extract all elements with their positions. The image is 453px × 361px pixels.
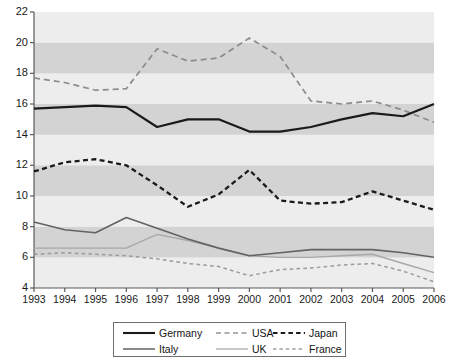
x-tick-2003: 2003 [325, 294, 359, 305]
legend-item-uk[interactable]: UK [215, 341, 267, 357]
y-tick-18: 18 [2, 67, 28, 78]
italy-line-icon [122, 344, 156, 354]
x-tick-1994: 1994 [48, 294, 82, 305]
x-tick-1999: 1999 [202, 294, 236, 305]
x-tick-2006: 2006 [417, 294, 451, 305]
y-tick-8: 8 [2, 221, 28, 232]
y-tick-6: 6 [2, 251, 28, 262]
x-tick-1996: 1996 [109, 294, 143, 305]
legend-label-uk: UK [252, 344, 267, 354]
y-tick-10: 10 [2, 190, 28, 201]
y-tick-14: 14 [2, 129, 28, 140]
france-line-icon [272, 344, 306, 354]
legend-item-france[interactable]: France [272, 341, 342, 357]
x-tick-1995: 1995 [79, 294, 113, 305]
chart-figure: 46810121416182022 1993199419951996199719… [0, 0, 453, 361]
line-chart-canvas [0, 0, 453, 361]
x-tick-1993: 1993 [17, 294, 51, 305]
y-tick-16: 16 [2, 98, 28, 109]
chart-legend: Germany USA Japan Italy UK France [113, 322, 346, 357]
y-tick-22: 22 [2, 6, 28, 17]
x-tick-2002: 2002 [294, 294, 328, 305]
x-tick-2005: 2005 [386, 294, 420, 305]
x-tick-2004: 2004 [355, 294, 389, 305]
legend-item-japan[interactable]: Japan [272, 325, 338, 341]
legend-label-germany: Germany [159, 328, 202, 338]
legend-item-usa[interactable]: USA [215, 325, 274, 341]
uk-line-icon [215, 344, 249, 354]
legend-row-2: Italy UK France [114, 341, 347, 357]
legend-item-germany[interactable]: Germany [122, 325, 202, 341]
germany-line-icon [122, 328, 156, 338]
usa-line-icon [215, 328, 249, 338]
grid-bands [34, 12, 434, 288]
legend-item-italy[interactable]: Italy [122, 341, 178, 357]
y-tick-20: 20 [2, 37, 28, 48]
x-tick-1998: 1998 [171, 294, 205, 305]
japan-line-icon [272, 328, 306, 338]
legend-label-usa: USA [252, 328, 274, 338]
x-tick-1997: 1997 [140, 294, 174, 305]
x-tick-2001: 2001 [263, 294, 297, 305]
x-tick-2000: 2000 [232, 294, 266, 305]
legend-label-japan: Japan [309, 328, 338, 338]
legend-label-italy: Italy [159, 344, 178, 354]
y-tick-12: 12 [2, 159, 28, 170]
y-tick-4: 4 [2, 282, 28, 293]
legend-label-france: France [309, 344, 342, 354]
legend-row-1: Germany USA Japan [114, 325, 347, 341]
